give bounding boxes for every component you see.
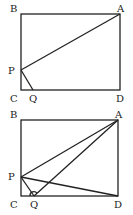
label-p: P — [8, 171, 15, 182]
segment-pa — [21, 14, 120, 70]
label-q: Q — [30, 199, 38, 210]
label-b: B — [10, 3, 17, 14]
rectangle-abcd — [21, 14, 120, 90]
label-d: D — [114, 199, 122, 210]
label-p: P — [8, 65, 15, 76]
segment-pd — [21, 177, 118, 196]
segment-pa — [21, 120, 118, 177]
segment-qa — [34, 120, 118, 196]
segment-pq — [21, 177, 34, 196]
segment-pq — [21, 70, 33, 90]
label-a: A — [116, 3, 125, 14]
label-a: A — [114, 109, 123, 120]
figure-1: B A P C Q D — [8, 3, 125, 104]
label-b: B — [10, 109, 17, 120]
figure-2: B A P C Q D — [8, 109, 123, 210]
label-d: D — [116, 93, 124, 104]
rectangle-abcd — [21, 120, 118, 196]
label-q: Q — [29, 93, 37, 104]
geometry-diagrams: B A P C Q D B A P C Q D — [0, 0, 133, 215]
label-c: C — [10, 199, 18, 210]
label-c: C — [10, 93, 18, 104]
